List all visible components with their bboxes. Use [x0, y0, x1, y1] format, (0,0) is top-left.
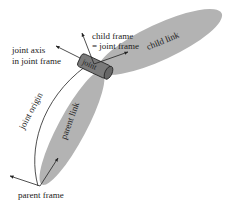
- joint-axis-label-2: in joint frame: [12, 56, 61, 66]
- parent-frame-label: parent frame: [18, 190, 64, 200]
- joint-axis-label-1: joint axis: [11, 45, 46, 55]
- joint-diagram: joint child frame = joint frame joint ax…: [0, 0, 227, 204]
- child-frame-label-1: child frame: [92, 31, 133, 41]
- child-frame-label-2: = joint frame: [92, 41, 139, 51]
